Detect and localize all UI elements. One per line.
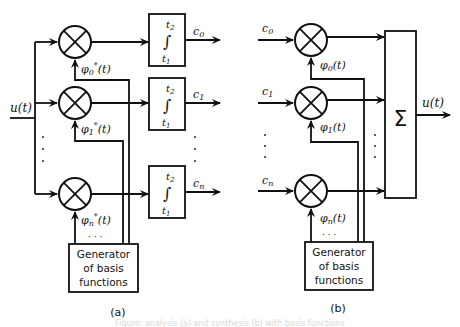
basis-label-n: φn*(t) [81, 212, 111, 228]
integrator-0: t2 ∫ t1 [149, 14, 185, 66]
basis-label-bn: φn(t) [320, 212, 346, 226]
basis-label-b1: φ1(t) [320, 121, 346, 135]
faint-figure-caption: Figure: analysis (a) and synthesis (b) w… [115, 319, 344, 327]
svg-text:∫: ∫ [163, 96, 171, 115]
panel-b-synthesis: c0 c1 cn [258, 22, 450, 315]
generator-ellipsis-b: · · · [322, 230, 336, 240]
basis-label-0: φ0*(t) [81, 61, 111, 77]
svg-text:Generator: Generator [312, 246, 366, 258]
input-label-c1: c1 [262, 85, 273, 99]
input-label-u: u(t) [10, 101, 32, 115]
summer-input-ellipsis-dots [374, 134, 376, 158]
input-label-cn: cn [262, 174, 273, 188]
generator-box-a: Generator of basis functions [69, 244, 138, 292]
output-label-c1: c1 [193, 88, 204, 102]
integrator-n: t2 ∫ t1 [149, 166, 185, 218]
multiplier-b0 [295, 24, 327, 56]
multiplier-1 [59, 87, 91, 119]
bus-ellipsis-dots [42, 136, 44, 162]
svg-text:of basis: of basis [319, 260, 359, 272]
output-label-cn: cn [193, 177, 204, 191]
svg-text:functions: functions [315, 274, 363, 286]
generator-box-b: Generator of basis functions [305, 242, 373, 290]
generator-ellipsis: · · · [88, 232, 102, 242]
output-label-c0: c0 [193, 25, 204, 39]
basis-label-1: φ1*(t) [81, 121, 111, 137]
multiplier-bn [295, 175, 327, 207]
svg-text:functions: functions [79, 276, 127, 288]
caption-a: (a) [110, 306, 125, 319]
output-label-u: u(t) [422, 96, 444, 110]
svg-text:∫: ∫ [163, 32, 171, 51]
output-ellipsis-dots [194, 136, 196, 162]
svg-text:of basis: of basis [83, 262, 123, 274]
basis-label-b0: φ0(t) [320, 59, 346, 73]
multiplier-b1 [295, 87, 327, 119]
svg-text:Generator: Generator [77, 248, 131, 260]
input-label-c0: c0 [262, 22, 273, 36]
multiplier-n [59, 178, 91, 210]
panel-a-analysis: u(t) [10, 14, 220, 319]
summer-box: Σ [385, 31, 416, 198]
basis-function-diagram: u(t) [0, 0, 460, 327]
svg-text:∫: ∫ [163, 184, 171, 203]
integrator-1: t2 ∫ t1 [149, 78, 185, 130]
sigma-symbol: Σ [394, 106, 408, 131]
input-ellipsis-dots [264, 134, 266, 158]
caption-b: (b) [330, 302, 346, 315]
multiplier-0 [59, 26, 91, 58]
